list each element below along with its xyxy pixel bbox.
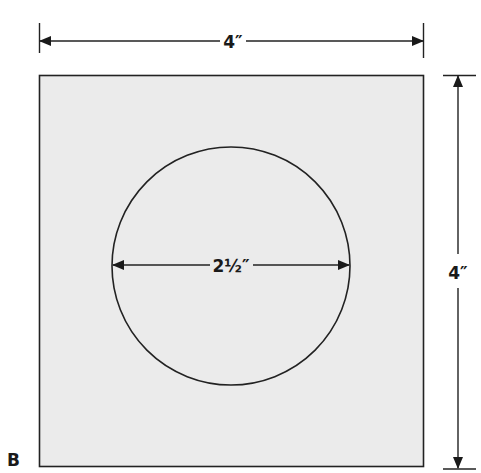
diagram-canvas: 4″ 4″ 2½″ B — [0, 0, 481, 473]
figure-label: B — [7, 450, 20, 470]
width-label: 4″ — [223, 32, 243, 52]
diameter-label: 2½″ — [212, 256, 249, 276]
height-label: 4″ — [448, 263, 468, 283]
